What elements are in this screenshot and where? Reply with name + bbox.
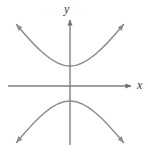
y-axis-label: y [64,3,69,15]
hyperbola-figure: y x [0,0,148,156]
hyperbola-lower-left-branch [17,101,71,143]
graph-canvas [0,0,148,156]
hyperbola-upper-left-branch [17,25,71,67]
hyperbola-lower-right-branch [70,101,124,143]
hyperbola-upper-right-branch [70,25,124,67]
x-axis-label: x [137,79,142,91]
